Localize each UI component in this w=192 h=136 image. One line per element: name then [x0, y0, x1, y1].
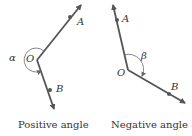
point-a [68, 15, 72, 19]
label-o: O [117, 67, 125, 78]
caption-positive: Positive angle [18, 119, 89, 130]
label-b: B [171, 81, 178, 92]
ray-ob [37, 60, 54, 109]
caption-negative: Negative angle [111, 119, 188, 130]
angle-diagrams [0, 0, 192, 136]
label-b: B [56, 83, 63, 94]
point-a [115, 18, 119, 22]
label-a: A [77, 16, 84, 27]
point-b [167, 92, 171, 96]
label-a: A [122, 13, 129, 24]
label-alpha: α [9, 52, 16, 63]
label-o: O [26, 53, 34, 64]
label-beta: β [141, 50, 147, 61]
ray-oa [37, 5, 81, 60]
point-b [48, 88, 52, 92]
